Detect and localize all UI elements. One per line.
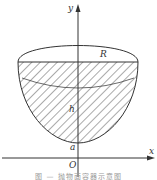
paraboloid-diagram: y x R h a O 图 — 抛物面容器示意图 xyxy=(0,0,157,180)
diagram-canvas xyxy=(0,0,157,180)
radius-label: R xyxy=(100,50,107,59)
y-axis-label: y xyxy=(68,4,73,13)
depth-label: h xyxy=(69,105,75,114)
origin-label: O xyxy=(69,161,76,170)
x-axis-arrow-icon xyxy=(147,156,155,161)
figure-caption: 图 — 抛物面容器示意图 xyxy=(0,171,157,180)
intercept-label: a xyxy=(70,143,75,152)
x-axis-label: x xyxy=(149,147,154,156)
y-axis-arrow-icon xyxy=(76,4,81,12)
